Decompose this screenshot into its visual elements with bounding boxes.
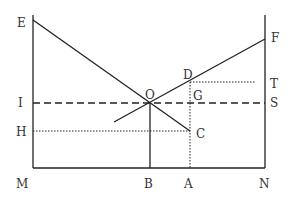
- label-H: H: [16, 125, 26, 139]
- label-A: A: [183, 177, 193, 191]
- label-E: E: [17, 16, 26, 30]
- diagram: E F D T O G I S H C M B A N: [0, 0, 291, 204]
- label-M: M: [16, 177, 28, 191]
- label-B: B: [144, 177, 153, 191]
- label-T: T: [270, 77, 278, 91]
- label-F: F: [271, 31, 279, 45]
- label-G: G: [193, 89, 203, 103]
- label-N: N: [259, 177, 270, 191]
- label-I: I: [18, 96, 23, 110]
- label-C: C: [196, 127, 205, 141]
- label-D: D: [183, 68, 193, 82]
- label-S: S: [270, 96, 278, 110]
- line-EC: [33, 20, 190, 131]
- label-O: O: [145, 88, 155, 102]
